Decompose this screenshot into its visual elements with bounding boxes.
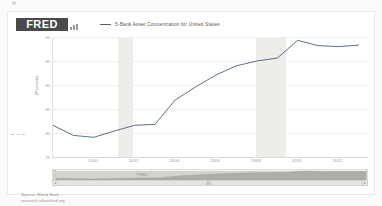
y-tick-50: 50 <box>28 35 50 40</box>
navigator-grip[interactable] <box>206 181 211 185</box>
x-tick-2008: 2008 <box>251 158 261 163</box>
series-line-5-bank-asset-concentration <box>53 37 369 157</box>
x-tick-2000: 2000 <box>88 158 98 163</box>
x-tick-2004: 2004 <box>169 158 179 163</box>
chart-legend[interactable]: 5-Bank Asset Concentration for United St… <box>100 21 220 27</box>
scroll-left-arrow-icon[interactable]: ◂ <box>52 180 58 186</box>
x-tick-2012: 2012 <box>333 158 343 163</box>
plot-area-wrapper: (Percent) 504540353025 20002002200420062… <box>25 37 368 164</box>
fred-logo: FRED <box>16 18 68 31</box>
site-text[interactable]: research.stlouisfed.org <box>21 198 65 204</box>
scanned-page-background: FRED 5-Bank Asset Concentration for Unit… <box>0 0 382 206</box>
scroll-right-arrow-icon[interactable]: ▸ <box>362 180 368 186</box>
x-axis-tick-labels: 2000200220042006200820102012 <box>52 158 368 168</box>
x-tick-2002: 2002 <box>129 158 139 163</box>
navigator-watermark: FRED <box>137 173 148 177</box>
chart-footer: Source: World Bank research.stlouisfed.o… <box>21 192 65 205</box>
scan-artifact-speck <box>12 1 16 5</box>
chart-plot[interactable] <box>52 37 368 157</box>
y-tick-40: 40 <box>28 83 50 88</box>
x-tick-2006: 2006 <box>210 158 220 163</box>
y-tick-35: 35 <box>28 107 50 112</box>
y-tick-25: 25 <box>28 155 50 160</box>
y-tick-45: 45 <box>28 59 50 64</box>
range-navigator[interactable]: FRED ◂ ▸ <box>52 169 368 186</box>
axis-reference-dash <box>11 134 25 135</box>
legend-color-swatch <box>100 24 111 25</box>
x-tick-2010: 2010 <box>292 158 302 163</box>
y-axis-tick-labels: 504540353025 <box>28 37 50 157</box>
y-tick-30: 30 <box>28 131 50 136</box>
legend-series-label: 5-Bank Asset Concentration for United St… <box>115 21 220 27</box>
bar-chart-icon <box>70 24 79 30</box>
fred-graph-card: FRED 5-Bank Asset Concentration for Unit… <box>7 11 375 195</box>
